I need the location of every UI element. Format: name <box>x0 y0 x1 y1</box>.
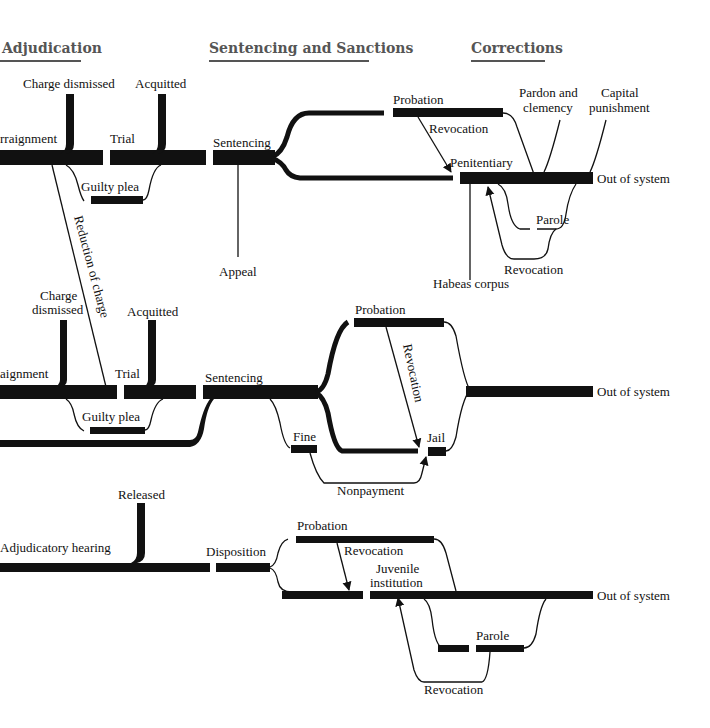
label-parole-revocation: Revocation <box>504 262 564 277</box>
header-adjudication: Adjudication <box>1 40 102 56</box>
label-juvenile-1: Juvenile <box>376 561 420 576</box>
header-sentencing: Sentencing and Sanctions <box>209 40 414 56</box>
path-to-fine <box>270 399 290 448</box>
parole-exit <box>524 599 546 648</box>
jail-to-out <box>446 390 470 451</box>
label-capital-2: punishment <box>589 100 650 115</box>
label-guilty-plea: Guilty plea <box>81 179 139 194</box>
section-headers: Adjudication Sentencing and Sanctions Co… <box>0 40 563 61</box>
label-fine: Fine <box>293 429 316 444</box>
label-arraignment: aignment <box>0 366 49 381</box>
label-out-of-system: Out of system <box>597 588 670 603</box>
band-out-of-system <box>466 386 593 397</box>
misdemeanor-track: Charge dismissed Acquitted aignment Tria… <box>0 288 670 498</box>
branch-released <box>131 503 145 563</box>
label-guilty-plea: Guilty plea <box>82 409 140 424</box>
label-disposition: Disposition <box>206 544 266 559</box>
path-to-probation <box>316 322 348 392</box>
criminal-justice-flow-diagram: Adjudication Sentencing and Sanctions Co… <box>0 0 710 728</box>
path-to-institution <box>270 568 292 592</box>
label-nonpayment: Nonpayment <box>337 483 405 498</box>
capital-line <box>590 120 606 172</box>
label-pardon-1: Pardon and <box>519 85 578 100</box>
label-sentencing: Sentencing <box>213 135 271 150</box>
label-probation-revocation: Revocation <box>344 543 404 558</box>
band-guilty-plea <box>90 427 145 434</box>
label-parole: Parole <box>536 212 569 227</box>
label-probation: Probation <box>297 518 348 533</box>
label-probation: Probation <box>393 92 444 107</box>
band-arraignment <box>0 150 103 165</box>
path-to-jail <box>316 393 418 451</box>
band-probation <box>393 108 503 117</box>
label-habeas-corpus: Habeas corpus <box>433 276 509 291</box>
label-acquitted: Acquitted <box>127 304 179 319</box>
parole-entry <box>498 184 530 229</box>
band-probation <box>296 536 434 543</box>
label-penitentiary: Penitentiary <box>450 155 513 170</box>
label-jail: Jail <box>427 430 445 445</box>
label-charge-dismissed: Charge dismissed <box>23 76 115 91</box>
path-to-penitentiary <box>272 158 453 178</box>
band-sentencing <box>203 385 318 399</box>
band-disposition <box>216 563 270 572</box>
label-trial: Trial <box>115 366 140 381</box>
label-probation-revocation: Revocation <box>429 121 489 136</box>
parole-entry <box>424 599 469 649</box>
label-probation: Probation <box>355 302 406 317</box>
branch-acquitted <box>152 94 166 154</box>
band-guilty-plea <box>91 196 143 204</box>
label-appeal: Appeal <box>219 264 257 279</box>
branch-acquitted <box>142 320 156 388</box>
guilty-plea-exit <box>143 165 161 200</box>
branch-charge-dismissed <box>53 320 67 388</box>
label-trial: Trial <box>110 131 135 146</box>
label-released: Released <box>118 487 165 502</box>
branch-charge-dismissed <box>60 94 74 154</box>
label-juvenile-2: institution <box>370 575 423 590</box>
label-out-of-system: Out of system <box>597 171 670 186</box>
band-pre-institution <box>282 591 363 599</box>
label-adjudicatory-hearing: Adjudicatory hearing <box>0 540 111 555</box>
label-parole: Parole <box>476 628 509 643</box>
band-parole-right <box>476 645 524 652</box>
label-out-of-system: Out of system <box>597 384 670 399</box>
band-fine <box>291 445 317 453</box>
label-capital-1: Capital <box>601 85 639 100</box>
label-charge-1: Charge <box>40 288 78 303</box>
header-corrections: Corrections <box>471 40 563 56</box>
label-parole-revocation: Revocation <box>424 682 484 697</box>
path-to-probation <box>272 113 384 157</box>
label-sentencing: Sentencing <box>205 370 263 385</box>
band-probation <box>354 318 444 327</box>
probation-to-out <box>434 539 456 591</box>
band-trial <box>124 385 196 399</box>
nonpayment-arrow <box>310 453 426 483</box>
label-arraignment: rraignment <box>0 131 57 146</box>
pardon-line <box>544 120 560 172</box>
band-jail <box>428 447 446 456</box>
probation-to-out <box>444 322 470 390</box>
guilty-plea-exit <box>145 399 163 430</box>
juvenile-track: Released Adjudicatory hearing Dispositio… <box>0 487 670 697</box>
band-adjudicatory-hearing <box>0 563 210 572</box>
band-parole-left <box>438 645 469 652</box>
label-acquitted: Acquitted <box>135 76 187 91</box>
band-penitentiary <box>460 172 593 184</box>
band-sentencing <box>213 150 275 165</box>
label-pardon-2: clemency <box>523 100 573 115</box>
label-charge-2: dismissed <box>32 302 84 317</box>
path-to-probation <box>270 539 288 567</box>
band-juvenile-institution <box>370 591 593 599</box>
